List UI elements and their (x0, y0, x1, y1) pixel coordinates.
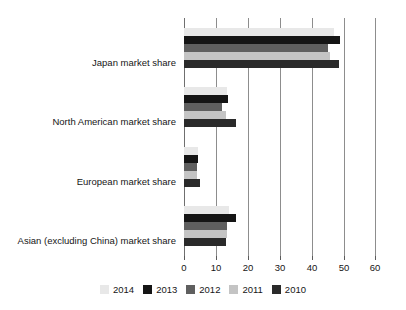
tick-mark (280, 256, 281, 260)
legend-item[interactable]: 2014 (100, 284, 134, 295)
tick-mark (248, 256, 249, 260)
bar-row (184, 230, 376, 238)
tick-label: 10 (211, 262, 222, 273)
bar-row (184, 147, 376, 155)
bar-row (184, 238, 376, 246)
bar[interactable] (184, 36, 340, 44)
bar-row (184, 28, 376, 36)
legend-swatch-icon (272, 285, 281, 294)
bar-row (184, 44, 376, 52)
bar[interactable] (184, 238, 226, 246)
bar-groups (184, 18, 376, 256)
tick-label: 20 (243, 262, 254, 273)
category-label: North American market share (52, 116, 176, 127)
tick-mark (184, 256, 185, 260)
bar-row (184, 179, 376, 187)
bar-row (184, 155, 376, 163)
tick-label: 60 (370, 262, 381, 273)
tick-mark (344, 256, 345, 260)
bar[interactable] (184, 222, 227, 230)
legend-label: 2013 (156, 284, 177, 295)
bar[interactable] (184, 214, 236, 222)
plot-area (184, 18, 376, 256)
bar[interactable] (184, 52, 330, 60)
legend-label: 2014 (113, 284, 134, 295)
bar-row (184, 163, 376, 171)
bar-group (184, 18, 376, 78)
bar-row (184, 119, 376, 127)
bar[interactable] (184, 111, 226, 119)
legend-swatch-icon (186, 285, 195, 294)
legend-item[interactable]: 2011 (229, 284, 262, 295)
legend-swatch-icon (229, 285, 238, 294)
category-axis-labels: Japan market share North American market… (0, 18, 180, 256)
legend-item[interactable]: 2012 (186, 284, 220, 295)
bar[interactable] (184, 95, 228, 103)
bar[interactable] (184, 103, 222, 111)
bar-group (184, 78, 376, 138)
legend-swatch-icon (100, 285, 109, 294)
legend-label: 2010 (285, 284, 306, 295)
bar-row (184, 214, 376, 222)
bar[interactable] (184, 44, 328, 52)
category-label: Japan market share (92, 57, 176, 68)
bar[interactable] (184, 171, 197, 179)
bar-row (184, 87, 376, 95)
category-label: European market share (77, 176, 176, 187)
tick-label: 30 (275, 262, 286, 273)
tick-mark (216, 256, 217, 260)
legend-swatch-icon (143, 285, 152, 294)
bar[interactable] (184, 119, 236, 127)
tick-label: 50 (339, 262, 350, 273)
legend-label: 2011 (242, 284, 262, 295)
bar[interactable] (184, 147, 198, 155)
bar[interactable] (184, 163, 197, 171)
bar-group (184, 137, 376, 197)
chart-legend: 20142013201220112010 (0, 284, 406, 295)
bar-row (184, 111, 376, 119)
bar-row (184, 222, 376, 230)
bar-row (184, 95, 376, 103)
bar-row (184, 52, 376, 60)
bar-row (184, 60, 376, 68)
bar-row (184, 36, 376, 44)
tick-mark (375, 256, 376, 260)
bar[interactable] (184, 28, 334, 36)
tick-label: 0 (181, 262, 186, 273)
bar[interactable] (184, 155, 198, 163)
bar-row (184, 206, 376, 214)
bar[interactable] (184, 230, 227, 238)
bar-row (184, 103, 376, 111)
value-axis: 0102030405060 (184, 256, 376, 278)
bar-row (184, 171, 376, 179)
legend-label: 2012 (199, 284, 220, 295)
category-label: Asian (excluding China) market share (18, 235, 176, 246)
legend-item[interactable]: 2010 (272, 284, 306, 295)
bar-chart: Japan market share North American market… (0, 0, 406, 310)
bar[interactable] (184, 179, 200, 187)
bar[interactable] (184, 87, 227, 95)
bar-group (184, 197, 376, 257)
legend-item[interactable]: 2013 (143, 284, 177, 295)
bar[interactable] (184, 60, 339, 68)
tick-mark (312, 256, 313, 260)
tick-label: 40 (307, 262, 318, 273)
bar[interactable] (184, 206, 229, 214)
